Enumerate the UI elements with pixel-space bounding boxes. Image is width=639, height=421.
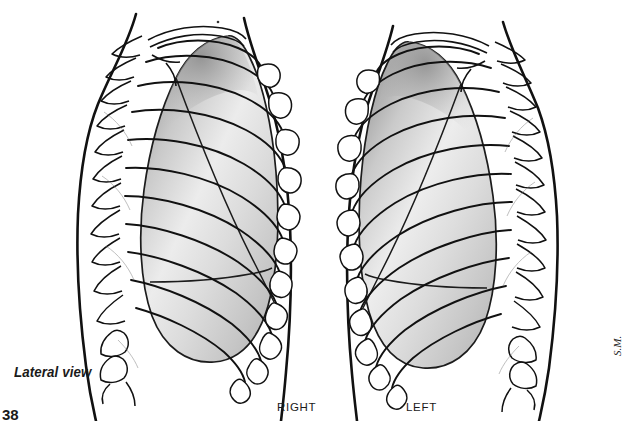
page-number: 38 bbox=[2, 406, 18, 421]
anatomy-artwork bbox=[0, 0, 639, 421]
illustration-canvas: Lateral view RIGHT LEFT S.M. 38 bbox=[0, 0, 639, 421]
ink-speck-right bbox=[217, 21, 220, 24]
lateral-view-caption: Lateral view bbox=[14, 364, 91, 380]
panel-label-left: LEFT bbox=[406, 401, 437, 413]
panel-label-right: RIGHT bbox=[277, 401, 316, 413]
artist-signature: S.M. bbox=[611, 336, 623, 356]
